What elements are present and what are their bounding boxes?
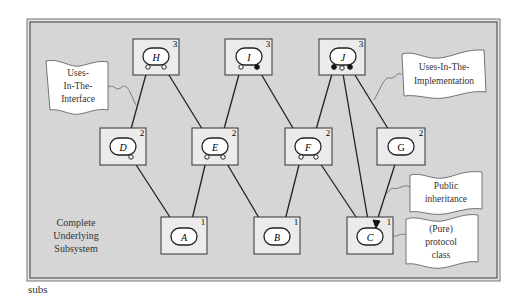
implementation-port-icon bbox=[332, 65, 337, 70]
component-label: F bbox=[304, 142, 312, 153]
component-dependency-diagram: H 3 I 3 J 3 D 2 E 2 bbox=[0, 0, 525, 301]
interface-port-icon bbox=[239, 65, 243, 69]
svg-text:protocol: protocol bbox=[425, 237, 457, 247]
component-A[interactable]: A 1 bbox=[161, 217, 207, 254]
component-G[interactable]: G 2 bbox=[377, 128, 425, 165]
callout-protocol-class: (Pure) protocol class bbox=[406, 215, 478, 269]
svg-text:class: class bbox=[432, 250, 451, 260]
interface-port-icon bbox=[129, 155, 133, 159]
component-I[interactable]: I 3 bbox=[225, 39, 272, 75]
level-number: 3 bbox=[173, 39, 178, 49]
component-label: J bbox=[341, 52, 346, 63]
svg-text:Subsystem: Subsystem bbox=[54, 243, 98, 254]
svg-text:inheritance: inheritance bbox=[425, 194, 467, 204]
component-F[interactable]: F 2 bbox=[285, 128, 332, 165]
component-label: D bbox=[118, 142, 127, 153]
interface-port-icon bbox=[221, 155, 225, 159]
level-number: 2 bbox=[326, 128, 331, 138]
component-label: A bbox=[180, 232, 188, 243]
component-label: E bbox=[211, 142, 218, 153]
component-label: B bbox=[274, 232, 280, 243]
component-C[interactable]: C 1 bbox=[347, 217, 393, 254]
level-number: 1 bbox=[294, 217, 299, 227]
interface-port-icon bbox=[162, 65, 166, 69]
svg-text:Uses-In-The-: Uses-In-The- bbox=[419, 62, 470, 72]
component-D[interactable]: D 2 bbox=[100, 128, 146, 165]
svg-text:Underlying: Underlying bbox=[53, 230, 99, 241]
svg-text:In-The-: In-The- bbox=[63, 81, 92, 91]
svg-text:Uses-: Uses- bbox=[67, 68, 89, 78]
callout-public-inheritance: Public inheritance bbox=[410, 172, 482, 215]
component-label: G bbox=[397, 142, 404, 153]
level-number: 3 bbox=[266, 39, 271, 49]
interface-port-icon bbox=[146, 65, 150, 69]
implementation-port-icon bbox=[255, 65, 260, 70]
callout-uses-in-interface: Uses- In-The- Interface bbox=[46, 60, 108, 114]
svg-text:(Pure): (Pure) bbox=[429, 224, 453, 235]
component-H[interactable]: H 3 bbox=[133, 39, 179, 75]
svg-text:Public: Public bbox=[434, 181, 458, 191]
svg-text:Implementation: Implementation bbox=[414, 76, 474, 86]
interface-port-icon bbox=[340, 66, 344, 70]
level-number: 2 bbox=[232, 128, 237, 138]
interface-port-icon bbox=[205, 155, 209, 159]
callout-uses-in-implementation: Uses-In-The- Implementation bbox=[402, 50, 486, 99]
component-B[interactable]: B 1 bbox=[254, 217, 300, 254]
component-label: H bbox=[151, 52, 160, 63]
level-number: 1 bbox=[201, 217, 206, 227]
component-label: C bbox=[367, 232, 374, 243]
component-label: I bbox=[246, 52, 251, 63]
component-E[interactable]: E 2 bbox=[192, 128, 238, 165]
svg-text:Interface: Interface bbox=[61, 94, 95, 104]
figure-caption: subs bbox=[28, 283, 48, 295]
level-number: 2 bbox=[419, 128, 424, 138]
level-number: 1 bbox=[387, 217, 392, 227]
interface-port-icon bbox=[314, 155, 318, 159]
level-number: 2 bbox=[140, 128, 145, 138]
implementation-port-icon bbox=[348, 65, 353, 70]
svg-text:Complete: Complete bbox=[57, 217, 96, 228]
frame-label: Complete Underlying Subsystem bbox=[53, 217, 99, 254]
interface-port-icon bbox=[299, 155, 303, 159]
level-number: 3 bbox=[359, 39, 364, 49]
